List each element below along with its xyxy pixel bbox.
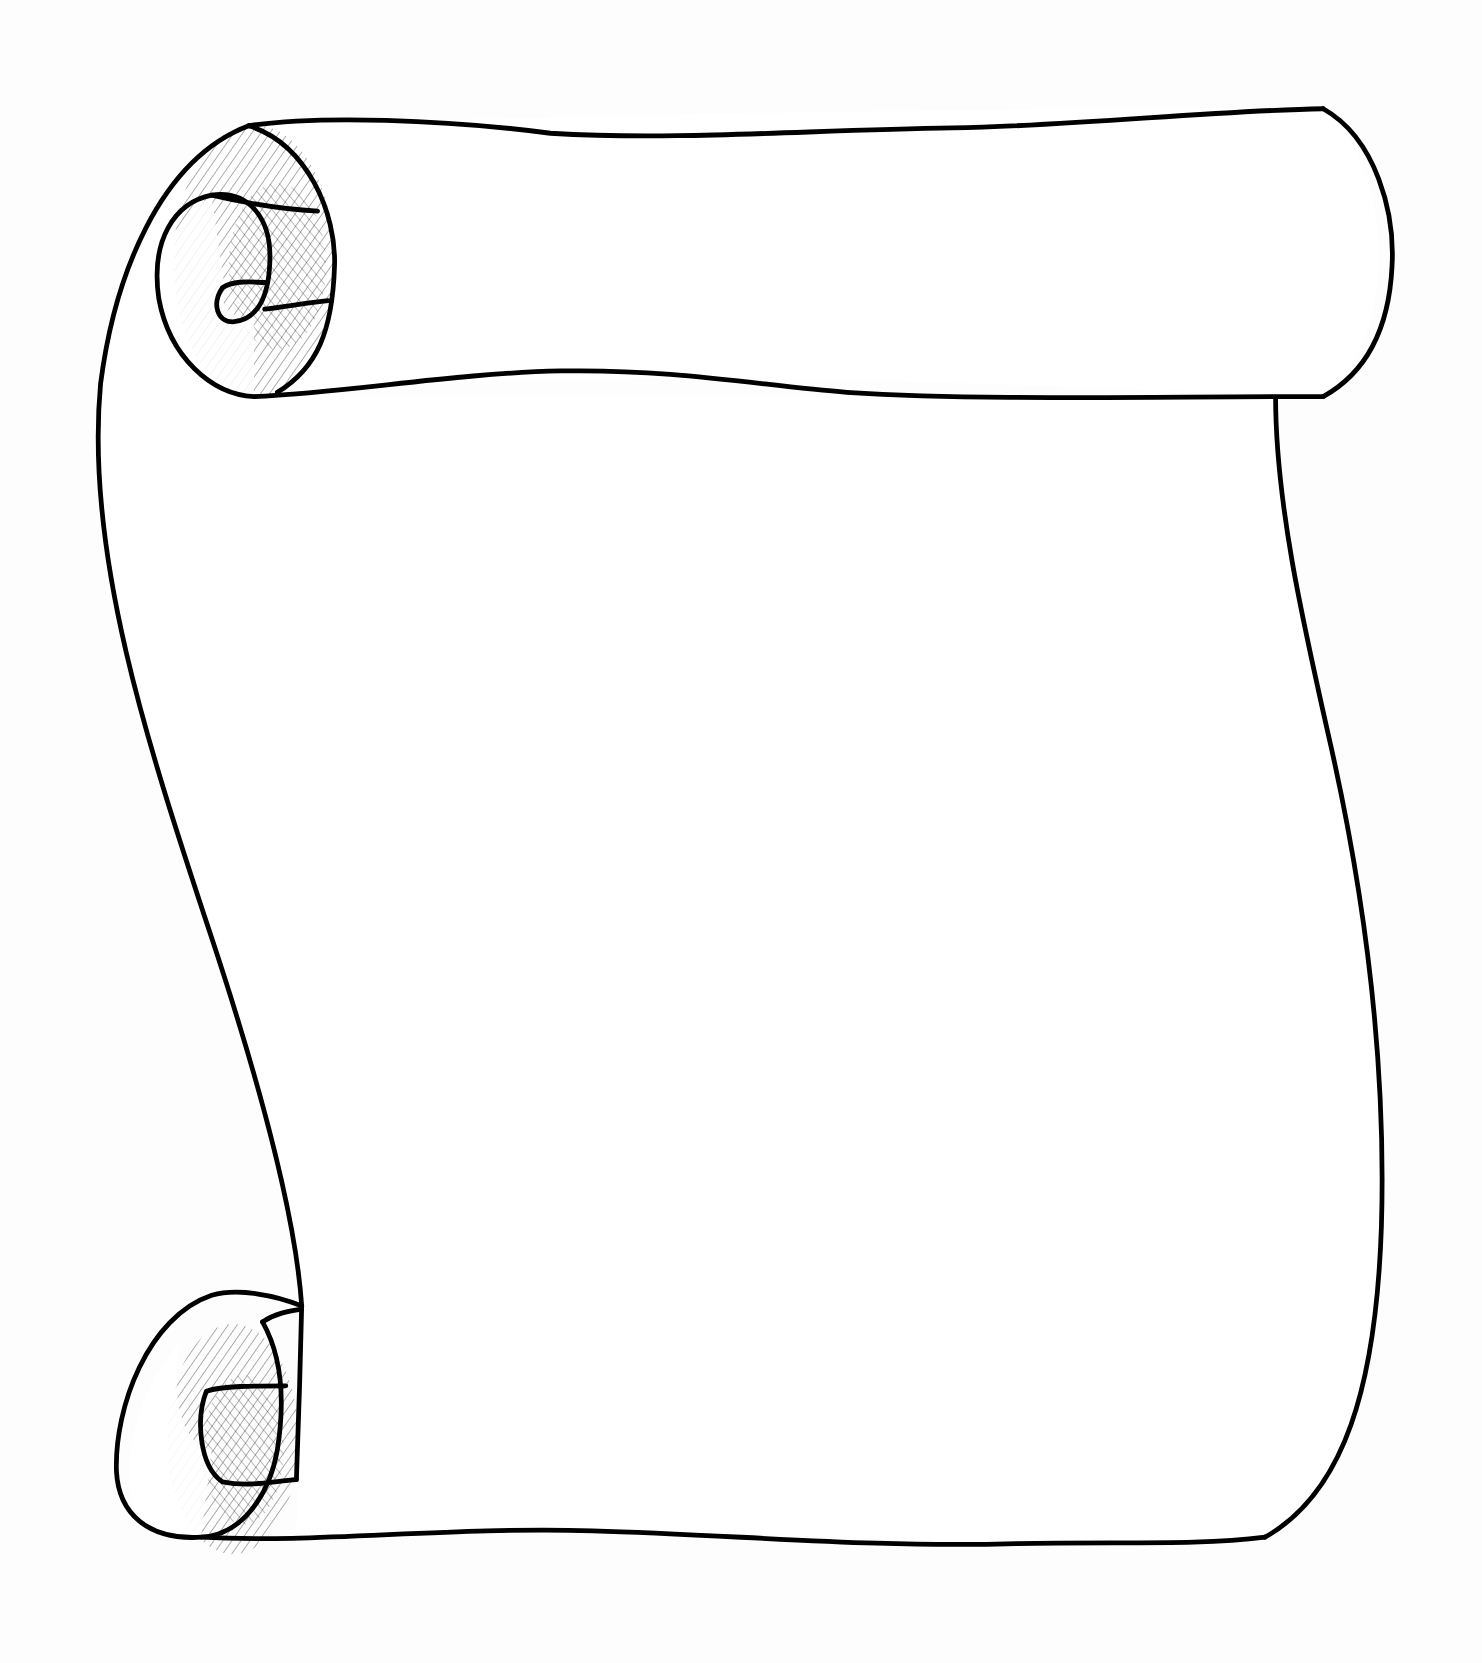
scroll-illustration xyxy=(0,0,1482,1663)
scroll-drawing xyxy=(0,0,1482,1663)
top-roll xyxy=(249,108,1393,397)
top-left-curl xyxy=(157,125,335,398)
bottom-left-curl xyxy=(116,1292,301,1554)
